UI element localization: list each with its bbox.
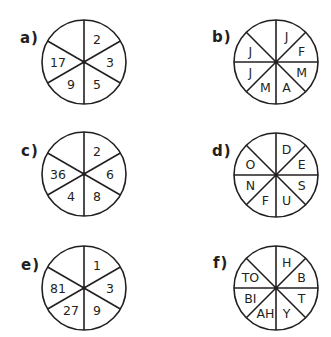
- segment-value: O: [245, 157, 255, 172]
- letter-wheel-f: HBTYAHBITO: [231, 243, 321, 333]
- segment-value: 6: [106, 167, 114, 182]
- segment-value: E: [298, 157, 306, 172]
- segment-value: BI: [244, 291, 256, 306]
- wheel-hub: [274, 286, 278, 290]
- segment-value: H: [282, 255, 291, 270]
- wheel-hub: [82, 286, 86, 290]
- segment-value: 2: [93, 144, 101, 159]
- wheel-hub: [82, 60, 86, 64]
- wheel-hub: [82, 172, 86, 176]
- segment-value: 1: [93, 258, 101, 273]
- segment-value: AH: [256, 306, 274, 321]
- segment-value: A: [282, 80, 291, 95]
- segment-value: D: [282, 142, 292, 157]
- puzzle-label-b: b): [212, 30, 232, 45]
- segment-value: U: [282, 193, 291, 208]
- segment-value: TO: [241, 270, 260, 285]
- segment-value: 9: [67, 77, 75, 92]
- segment-value: J: [284, 29, 289, 44]
- segment-value: 36: [50, 167, 66, 182]
- segment-value: Y: [282, 306, 291, 321]
- segment-value: F: [298, 44, 305, 59]
- number-wheel-c: 268436: [39, 129, 129, 219]
- segment-value: T: [297, 291, 306, 306]
- puzzle-label-e: e): [21, 258, 40, 273]
- segment-value: 17: [50, 55, 66, 70]
- letter-wheel-b: JFMAMJJ: [231, 17, 321, 107]
- puzzle-label-c: c): [21, 144, 39, 159]
- segment-value: B: [297, 270, 306, 285]
- segment-value: S: [298, 178, 306, 193]
- segment-value: 81: [50, 281, 66, 296]
- puzzle-label-f: f): [213, 256, 228, 271]
- segment-value: 5: [93, 77, 101, 92]
- segment-value: 27: [63, 303, 79, 318]
- segment-value: 4: [67, 189, 75, 204]
- puzzle-label-a: a): [20, 31, 39, 46]
- segment-value: 2: [93, 32, 101, 47]
- segment-value: N: [246, 178, 255, 193]
- segment-value: F: [262, 193, 269, 208]
- wheel-hub: [274, 60, 278, 64]
- segment-value: J: [248, 44, 253, 59]
- segment-value: M: [260, 80, 271, 95]
- wheel-hub: [274, 173, 278, 177]
- segment-value: J: [248, 65, 253, 80]
- puzzle-label-d: d): [212, 144, 232, 159]
- letter-wheel-d: DESUFNO: [231, 130, 321, 220]
- number-wheel-a: 235917: [39, 17, 129, 107]
- segment-value: 3: [106, 281, 114, 296]
- segment-value: 9: [93, 303, 101, 318]
- segment-value: 8: [93, 189, 101, 204]
- segment-value: M: [296, 65, 307, 80]
- number-wheel-e: 1392781: [39, 243, 129, 333]
- segment-value: 3: [106, 55, 114, 70]
